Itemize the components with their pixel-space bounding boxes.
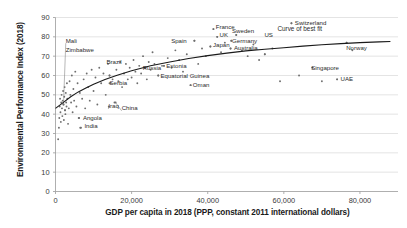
point-label-norway: Norway	[346, 44, 367, 51]
point-label-australia: Australia	[234, 44, 258, 51]
point-label-brazil: Brazil	[106, 58, 121, 65]
point-label-singapore: Singapore	[311, 64, 339, 71]
point-label-india: India	[84, 122, 97, 129]
y-tick-label: 30	[32, 129, 50, 138]
point-label-spain: Spain	[171, 37, 187, 44]
point-label-mali: Mali	[66, 37, 77, 44]
y-tick-label: 10	[32, 168, 50, 177]
point-label-germany: Germany	[232, 37, 257, 44]
scatter-chart: Environmental Performance Index (2018) G…	[0, 0, 407, 228]
point-label-sweden: Sweden	[232, 27, 254, 34]
y-tick-label: 40	[32, 110, 50, 119]
point-label-china: China	[122, 104, 138, 111]
y-tick-label: 20	[32, 148, 50, 157]
point-label-us: US	[264, 31, 272, 38]
point-label-uae: UAE	[341, 75, 354, 82]
x-tick-label: 60,000	[264, 196, 304, 205]
y-axis-title: Environmental Performance Index (2018)	[16, 10, 25, 190]
x-axis-title: GDP per capita in 2018 (PPP, constant 20…	[55, 208, 400, 217]
y-tick-label: 70	[32, 52, 50, 61]
point-label-japan: Japan	[213, 41, 230, 48]
x-tick-label: 40,000	[188, 196, 228, 205]
y-tick-label: 60	[32, 71, 50, 80]
point-label-estonia: Estonia	[166, 62, 186, 69]
x-tick-label: 80,000	[340, 196, 380, 205]
y-tick-label: 80	[32, 32, 50, 41]
point-label-serbia: Serbia	[110, 79, 128, 86]
point-label-equatorial-guinea: Equatorial Guinea	[161, 72, 210, 79]
y-tick-label: 90	[32, 13, 50, 22]
x-tick-label: 20,000	[112, 196, 152, 205]
annotation-curve-of-best-fit: Curve of best fit	[277, 25, 322, 32]
point-label-uk: UK	[219, 31, 227, 38]
point-label-russia: Russia	[143, 64, 162, 71]
y-tick-label: 50	[32, 90, 50, 99]
point-label-iraq: Iraq	[108, 102, 119, 109]
point-label-oman: Oman	[193, 81, 210, 88]
tick-marks	[53, 18, 360, 195]
point-label-zimbabwe: Zimbabwe	[66, 46, 94, 53]
x-tick-label: 0	[36, 196, 76, 205]
plot-canvas	[0, 0, 407, 228]
point-label-angola: Angola	[83, 114, 102, 121]
